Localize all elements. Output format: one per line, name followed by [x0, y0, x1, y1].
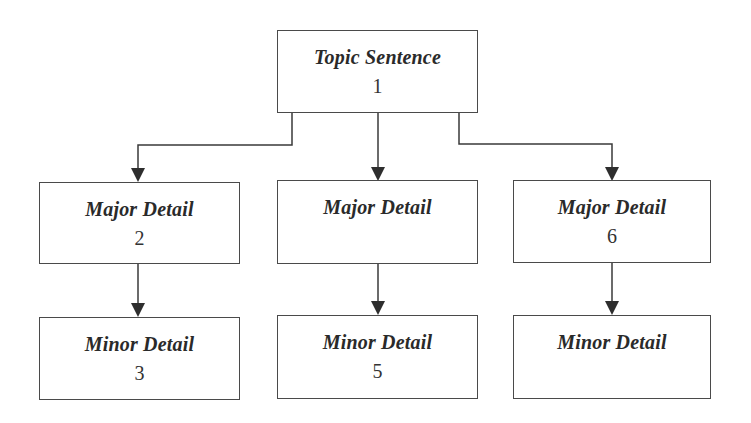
- connector-topic-to-major-right: [459, 112, 612, 168]
- node-title: Topic Sentence: [278, 45, 477, 69]
- node-major-detail-middle: Major Detail: [277, 180, 478, 264]
- node-title: Minor Detail: [514, 330, 710, 354]
- node-number: 6: [514, 224, 710, 248]
- node-major-detail-right: Major Detail 6: [513, 180, 711, 263]
- node-title: Major Detail: [278, 195, 477, 219]
- node-title: Major Detail: [514, 195, 710, 219]
- node-title: Major Detail: [40, 197, 239, 221]
- node-minor-detail-right: Minor Detail: [513, 315, 711, 399]
- node-number: 1: [278, 74, 477, 98]
- arrowhead-icon: [605, 301, 619, 315]
- node-minor-detail-middle: Minor Detail 5: [277, 315, 478, 399]
- node-number: 5: [278, 359, 477, 383]
- arrowhead-icon: [131, 168, 145, 182]
- arrowhead-icon: [605, 167, 619, 181]
- node-title: Minor Detail: [278, 330, 477, 354]
- node-major-detail-left: Major Detail 2: [39, 182, 240, 264]
- node-number: 2: [40, 226, 239, 250]
- node-topic-sentence: Topic Sentence 1: [277, 30, 478, 113]
- node-minor-detail-left: Minor Detail 3: [39, 317, 240, 400]
- arrowhead-icon: [371, 301, 385, 315]
- node-title: Minor Detail: [40, 332, 239, 356]
- node-number: 3: [40, 361, 239, 385]
- arrowhead-icon: [371, 167, 385, 181]
- connector-topic-to-major-left: [138, 112, 292, 170]
- arrowhead-icon: [131, 303, 145, 317]
